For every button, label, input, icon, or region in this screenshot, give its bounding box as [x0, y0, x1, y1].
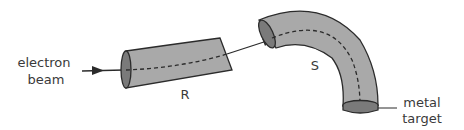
electron-beam-diagram: electron beam R S metal target	[0, 0, 464, 130]
electron-beam-label-line2: beam	[28, 72, 65, 87]
electron-beam-label-line1: electron	[17, 55, 70, 70]
metal-target-label-line2: target	[402, 111, 442, 126]
tube-r-label: R	[180, 87, 189, 102]
incoming-beam-arrow	[82, 66, 124, 75]
tube-r	[121, 38, 232, 88]
tube-s-label: S	[311, 58, 319, 73]
diagram-canvas: electron beam R S metal target	[0, 0, 464, 130]
metal-target-label-line1: metal	[403, 95, 440, 110]
